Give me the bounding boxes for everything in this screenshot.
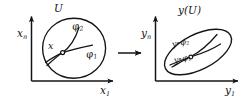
- left-x-axis-label: x1: [100, 85, 110, 96]
- curve-phi-1-label: φ1: [85, 48, 97, 60]
- diagram-canvas: [0, 0, 248, 99]
- region-u-label: U: [54, 3, 63, 14]
- point-x-label: x: [48, 41, 53, 51]
- point-x-marker: [61, 51, 65, 55]
- curve-phi-2-label: φ2: [71, 20, 83, 32]
- region-yu-label: y(U): [178, 5, 201, 16]
- right-y-axis-label: yn: [141, 28, 151, 39]
- right-x-axis-label: y1: [225, 85, 235, 96]
- left-y-axis-label: xn: [17, 28, 27, 39]
- diagram-figure: xn x1 U x φ2 φ1 yn y1 y(U) y∘φ2 y∘φ1: [0, 0, 248, 99]
